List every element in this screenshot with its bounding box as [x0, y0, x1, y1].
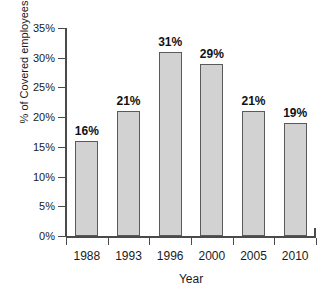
x-tick — [316, 238, 317, 245]
y-tick-label: 35% — [15, 22, 55, 34]
y-tick-label: 5% — [15, 200, 55, 212]
bar-value-label: 16% — [57, 124, 117, 138]
bar — [117, 111, 140, 236]
x-tick — [108, 238, 109, 245]
x-tick — [149, 238, 150, 245]
y-tick — [58, 117, 65, 118]
x-tick — [191, 238, 192, 245]
x-tick — [274, 238, 275, 245]
bar-chart: % of Covered employees 0%5%10%15%20%25%3… — [0, 0, 324, 294]
y-tick-label: 25% — [15, 81, 55, 93]
bar — [200, 64, 223, 236]
y-tick — [58, 206, 65, 207]
y-tick — [58, 177, 65, 178]
bar-value-label: 21% — [99, 94, 159, 108]
bar — [75, 141, 98, 236]
y-tick-label: 15% — [15, 141, 55, 153]
x-tick-label: 2010 — [265, 249, 324, 263]
y-tick — [58, 28, 65, 29]
bar — [284, 123, 307, 236]
y-tick — [58, 147, 65, 148]
y-tick — [58, 58, 65, 59]
bar — [159, 52, 182, 236]
y-tick-label: 20% — [15, 111, 55, 123]
y-tick-label: 10% — [15, 171, 55, 183]
bar — [242, 111, 265, 236]
y-tick-label: 0% — [15, 230, 55, 242]
bar-value-label: 19% — [265, 106, 324, 120]
x-axis-title: Year — [66, 272, 316, 286]
x-tick — [66, 238, 67, 245]
x-tick — [233, 238, 234, 245]
y-tick — [58, 87, 65, 88]
y-tick — [58, 236, 65, 237]
y-tick-label: 30% — [15, 52, 55, 64]
bar-value-label: 29% — [182, 47, 242, 61]
